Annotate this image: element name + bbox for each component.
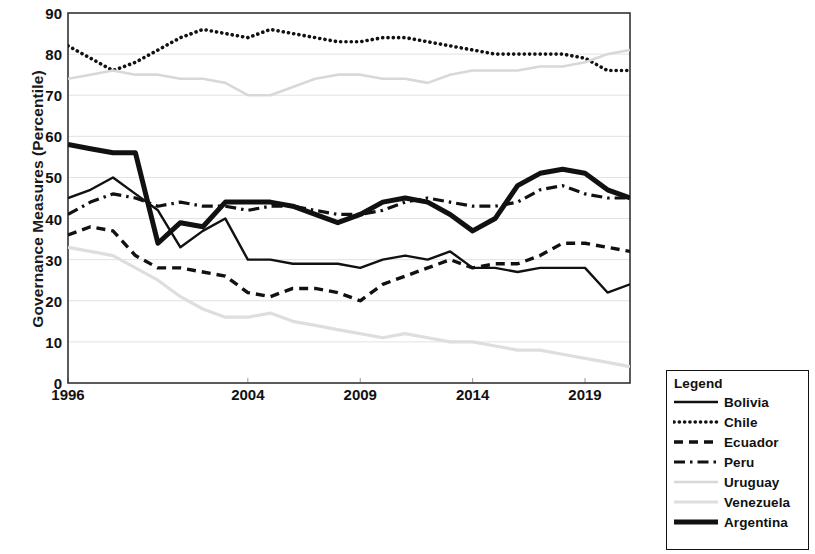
legend-swatch-argentina bbox=[673, 515, 719, 529]
legend-item-bolivia[interactable]: Bolivia bbox=[673, 392, 808, 412]
legend-title: Legend bbox=[674, 376, 808, 391]
legend-label: Peru bbox=[724, 455, 754, 470]
legend-swatch-bolivia bbox=[673, 395, 719, 409]
x-axis-tick-label: 2014 bbox=[456, 386, 489, 403]
legend-swatch-chile bbox=[673, 415, 719, 429]
series-line-chile bbox=[68, 29, 630, 70]
legend-label: Uruguay bbox=[724, 475, 779, 490]
legend-item-ecuador[interactable]: Ecuador bbox=[673, 432, 808, 452]
series-line-peru bbox=[68, 186, 630, 215]
legend-item-argentina[interactable]: Argentina bbox=[673, 512, 808, 532]
x-axis-tick-label: 2019 bbox=[568, 386, 601, 403]
x-axis-tick-label: 2004 bbox=[231, 386, 264, 403]
legend-swatch-ecuador bbox=[673, 435, 719, 449]
legend-label: Venezuela bbox=[724, 495, 790, 510]
legend-swatch-uruguay bbox=[673, 475, 719, 489]
data-series-group bbox=[68, 29, 630, 366]
series-line-argentina bbox=[68, 145, 630, 244]
legend-items: BoliviaChileEcuadorPeruUruguayVenezuelaA… bbox=[673, 392, 808, 532]
series-line-ecuador bbox=[68, 227, 630, 301]
legend-label: Ecuador bbox=[724, 435, 779, 450]
legend: Legend BoliviaChileEcuadorPeruUruguayVen… bbox=[666, 370, 809, 550]
legend-label: Argentina bbox=[724, 515, 788, 530]
legend-item-peru[interactable]: Peru bbox=[673, 452, 808, 472]
legend-label: Bolivia bbox=[724, 395, 769, 410]
legend-swatch-peru bbox=[673, 455, 719, 469]
series-line-uruguay bbox=[68, 50, 630, 95]
gridlines bbox=[68, 54, 630, 342]
legend-item-venezuela[interactable]: Venezuela bbox=[673, 492, 808, 512]
x-axis-tick-label: 2009 bbox=[344, 386, 377, 403]
x-axis-tick-label: 1996 bbox=[51, 386, 84, 403]
series-line-bolivia bbox=[68, 177, 630, 292]
plot-frame bbox=[68, 13, 630, 383]
legend-item-uruguay[interactable]: Uruguay bbox=[673, 472, 808, 492]
legend-swatch-venezuela bbox=[673, 495, 719, 509]
legend-item-chile[interactable]: Chile bbox=[673, 412, 808, 432]
legend-label: Chile bbox=[724, 415, 758, 430]
governance-line-chart: Governance Measures (Percentile) 0102030… bbox=[0, 0, 815, 554]
